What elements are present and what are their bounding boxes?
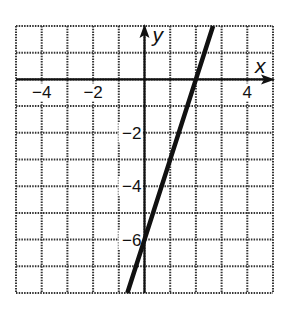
x-tick-label: −2: [83, 83, 102, 102]
x-axis-label: x: [254, 54, 267, 77]
y-tick-label: −4: [122, 177, 141, 196]
y-axis-label: y: [151, 23, 165, 46]
coordinate-plane: −4−24−2−4−6 x y: [0, 0, 294, 312]
y-tick-label: −2: [122, 124, 141, 143]
x-tick-label: 4: [243, 83, 252, 102]
x-tick-label: −4: [32, 83, 51, 102]
y-tick-label: −6: [122, 231, 141, 250]
